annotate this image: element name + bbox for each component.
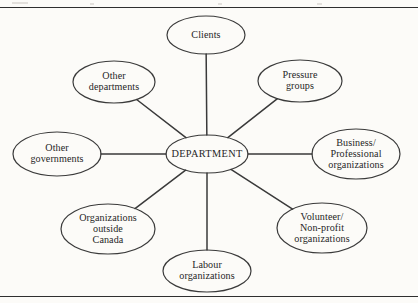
node-ellipse-department[interactable] — [166, 135, 248, 173]
node-ellipse-pressure-groups[interactable] — [258, 60, 342, 102]
diagram-canvas — [0, 0, 418, 303]
node-ellipse-other-governments[interactable] — [13, 132, 101, 176]
node-ellipse-other-departments[interactable] — [73, 61, 155, 103]
connector-layer — [101, 54, 312, 250]
node-ellipse-labour-organizations[interactable] — [163, 250, 251, 292]
node-ellipse-clients[interactable] — [167, 16, 245, 54]
connector-department-to-organizations-outside-canada — [135, 170, 186, 208]
connector-department-to-clients — [206, 54, 207, 135]
connector-department-to-volunteer-non-profit-organizations — [231, 169, 293, 209]
connector-department-to-pressure-groups — [228, 99, 278, 138]
connector-department-to-other-departments — [137, 100, 186, 138]
node-ellipse-organizations-outside-canada[interactable] — [61, 204, 155, 254]
diagram-page: DEPARTMENTClientsOther departmentsPressu… — [0, 0, 418, 303]
node-ellipse-volunteer-non-profit-organizations[interactable] — [277, 203, 367, 253]
node-ellipse-business-professional-organizations[interactable] — [312, 129, 400, 179]
